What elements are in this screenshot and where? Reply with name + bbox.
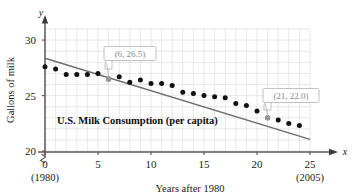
x-sublabel-2005: (2005) [296,172,324,184]
data-point [297,123,302,128]
data-point [85,72,90,77]
x-tick-label-10: 10 [146,158,158,170]
y-tick-label-20: 20 [25,145,37,157]
data-point [64,72,69,77]
y-tick-label-25: 25 [25,90,37,102]
x-tick-label-15: 15 [199,158,211,170]
y-tick-label-30: 30 [25,34,37,46]
data-point [127,80,132,85]
milk-consumption-scatter-plot: 30 25 20 0 5 10 15 20 25 (1980) (2005) y… [0,0,354,194]
data-point [117,74,122,79]
data-point [286,121,291,126]
x-axis-title: Years after 1980 [156,183,225,194]
x-tick-label-0: 0 [42,158,48,170]
y-axis-title: Gallons of milk [5,56,16,123]
callout-tail-2 [264,102,271,110]
data-point [191,91,196,96]
data-point [159,81,164,86]
data-point [138,78,143,83]
data-point [74,72,79,77]
x-tick-label-25: 25 [305,158,317,170]
x-sublabel-1980: (1980) [31,172,59,184]
data-point [255,109,260,114]
annotation-label-2: (21, 22.0) [273,91,308,101]
x-axis-symbol: x [342,146,348,157]
data-point [223,95,228,100]
data-point [170,83,175,88]
data-point [244,103,249,108]
data-point [149,81,154,86]
x-tick-label-20: 20 [252,158,264,170]
y-axis-symbol: y [38,7,44,18]
data-point [53,66,58,71]
annotation-marker [106,76,111,81]
data-point [276,118,281,123]
data-point [43,64,48,69]
data-point [180,90,185,95]
x-tick-label-5: 5 [95,158,101,170]
data-point [202,93,207,98]
chart-figure: 30 25 20 0 5 10 15 20 25 (1980) (2005) y… [0,0,354,194]
chart-title: U.S. Milk Consumption (per capita) [57,115,218,127]
callout-tail-1 [105,60,112,69]
data-point [212,94,217,99]
data-point [233,101,238,106]
annotation-label-1: (6, 26.5) [115,49,146,59]
data-point [96,71,101,76]
